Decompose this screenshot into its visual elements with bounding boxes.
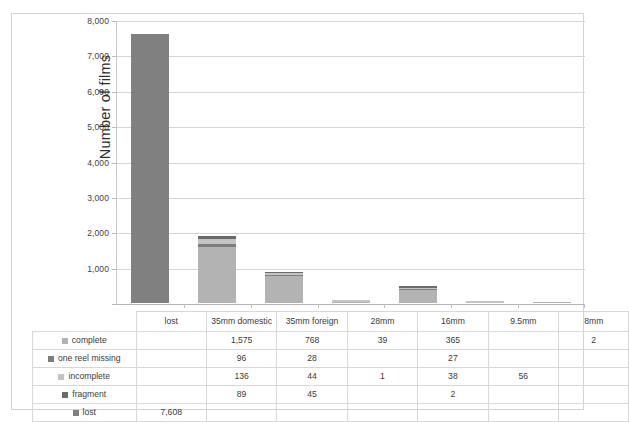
bar-segment[interactable] bbox=[399, 290, 437, 303]
table-cell bbox=[559, 368, 629, 386]
table-cell: 56 bbox=[488, 368, 558, 386]
y-tick-mark bbox=[112, 198, 116, 199]
x-tick-mark bbox=[584, 304, 585, 308]
gridline bbox=[117, 233, 585, 234]
table-column-header: 16mm bbox=[418, 312, 488, 332]
table-row: one reel missing962827 bbox=[33, 350, 629, 368]
table-cell bbox=[136, 386, 206, 404]
table-header-row: lost35mm domestic35mm foreign28mm16mm9.5… bbox=[33, 312, 629, 332]
y-tick-mark bbox=[112, 163, 116, 164]
bar-column[interactable] bbox=[265, 272, 303, 303]
plot-region: 8,0007,0006,0005,0004,0003,0002,0001,000 bbox=[116, 21, 584, 305]
legend-swatch-icon bbox=[62, 392, 68, 398]
chart-figure-frame: Number of films 8,0007,0006,0005,0004,00… bbox=[11, 13, 584, 410]
bar-segment[interactable] bbox=[466, 301, 504, 303]
table-column-header: lost bbox=[136, 312, 206, 332]
y-tick-label: 1,000 bbox=[87, 264, 109, 274]
y-tick-label: 2,000 bbox=[87, 228, 109, 238]
bar-segment[interactable] bbox=[332, 302, 370, 303]
y-tick-mark bbox=[112, 233, 116, 234]
bar-segment[interactable] bbox=[533, 302, 571, 303]
gridline bbox=[117, 92, 585, 93]
y-tick-mark bbox=[112, 56, 116, 57]
x-tick-mark bbox=[184, 304, 185, 308]
chart-data-table: lost35mm domestic35mm foreign28mm16mm9.5… bbox=[32, 311, 629, 422]
legend-label: fragment bbox=[72, 389, 106, 399]
y-axis-title: Number of films bbox=[97, 42, 113, 172]
legend-label: complete bbox=[72, 335, 107, 345]
table-cell bbox=[418, 404, 488, 422]
table-column-header: 35mm domestic bbox=[206, 312, 276, 332]
table-cell bbox=[347, 350, 417, 368]
y-tick-mark bbox=[112, 304, 116, 305]
bar-column[interactable] bbox=[399, 286, 437, 303]
legend-label: one reel missing bbox=[58, 353, 121, 363]
table-row: complete1,575768393652 bbox=[33, 332, 629, 350]
bar-column[interactable] bbox=[198, 236, 236, 303]
legend-entry: lost bbox=[33, 404, 137, 422]
table-cell bbox=[206, 404, 276, 422]
table-cell bbox=[488, 386, 558, 404]
y-tick-mark bbox=[112, 21, 116, 22]
legend-label: lost bbox=[83, 407, 96, 417]
legend-swatch-icon bbox=[62, 338, 68, 344]
x-tick-mark bbox=[451, 304, 452, 308]
table-cell: 768 bbox=[277, 332, 347, 350]
y-tick-mark bbox=[112, 92, 116, 93]
table-cell: 7,608 bbox=[136, 404, 206, 422]
table-head: lost35mm domestic35mm foreign28mm16mm9.5… bbox=[33, 312, 629, 332]
table-cell bbox=[347, 404, 417, 422]
table-cell bbox=[136, 332, 206, 350]
table-cell: 39 bbox=[347, 332, 417, 350]
table-cell: 44 bbox=[277, 368, 347, 386]
bar-column[interactable] bbox=[131, 34, 169, 303]
table-cell bbox=[559, 386, 629, 404]
y-tick-label: 4,000 bbox=[87, 158, 109, 168]
table-cell bbox=[136, 368, 206, 386]
gridline bbox=[117, 269, 585, 270]
legend-swatch-icon bbox=[58, 374, 64, 380]
legend-entry: complete bbox=[33, 332, 137, 350]
legend-swatch-icon bbox=[48, 356, 54, 362]
table-cell: 365 bbox=[418, 332, 488, 350]
y-tick-label: 5,000 bbox=[87, 122, 109, 132]
gridline bbox=[117, 127, 585, 128]
bar-column[interactable] bbox=[533, 302, 571, 303]
y-tick-label: 6,000 bbox=[87, 87, 109, 97]
y-tick-mark bbox=[112, 127, 116, 128]
bar-segment[interactable] bbox=[198, 247, 236, 303]
table-cell: 1 bbox=[347, 368, 417, 386]
gridline bbox=[117, 56, 585, 57]
bar-column[interactable] bbox=[332, 300, 370, 303]
bar-segment[interactable] bbox=[131, 34, 169, 303]
gridline bbox=[117, 21, 585, 22]
table-cell bbox=[347, 386, 417, 404]
table-cell: 96 bbox=[206, 350, 276, 368]
x-tick-mark bbox=[318, 304, 319, 308]
table-cell bbox=[559, 350, 629, 368]
legend-label: incomplete bbox=[68, 371, 110, 381]
table-cell: 28 bbox=[277, 350, 347, 368]
table-column-header: 35mm foreign bbox=[277, 312, 347, 332]
x-tick-mark bbox=[251, 304, 252, 308]
y-tick-label: 3,000 bbox=[87, 193, 109, 203]
table-column-header: 28mm bbox=[347, 312, 417, 332]
bar-column[interactable] bbox=[466, 301, 504, 303]
table-cell bbox=[488, 350, 558, 368]
table-row: incomplete1364413856 bbox=[33, 368, 629, 386]
bar-segment[interactable] bbox=[265, 276, 303, 303]
table-cell: 27 bbox=[418, 350, 488, 368]
table-cell: 89 bbox=[206, 386, 276, 404]
table-cell: 45 bbox=[277, 386, 347, 404]
table-cell: 2 bbox=[418, 386, 488, 404]
table-row: lost7,608 bbox=[33, 404, 629, 422]
legend-swatch-icon bbox=[73, 410, 79, 416]
table-cell bbox=[488, 404, 558, 422]
table-body: complete1,575768393652one reel missing96… bbox=[33, 332, 629, 422]
x-tick-mark bbox=[518, 304, 519, 308]
table-cell bbox=[277, 404, 347, 422]
table-cell: 38 bbox=[418, 368, 488, 386]
table-cell bbox=[559, 404, 629, 422]
legend-entry: incomplete bbox=[33, 368, 137, 386]
y-tick-label: 7,000 bbox=[87, 51, 109, 61]
